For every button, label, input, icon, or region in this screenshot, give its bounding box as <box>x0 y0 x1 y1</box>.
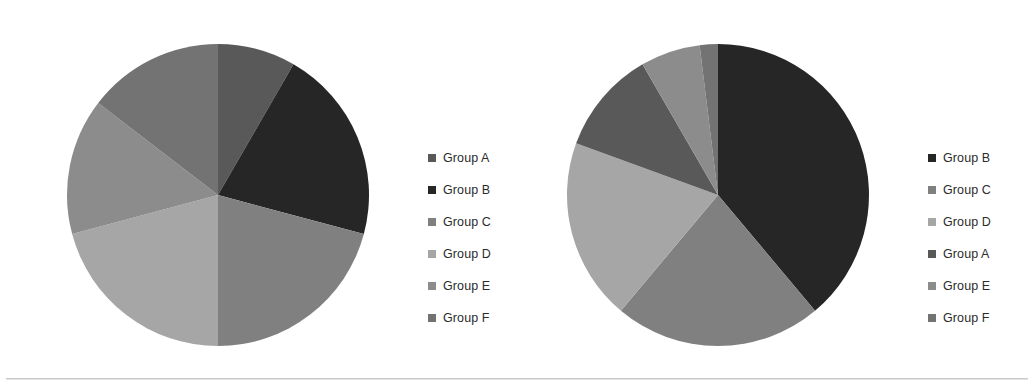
legend-item-group-f-left[interactable]: Group F <box>428 302 491 334</box>
legend-swatch-icon <box>428 282 436 290</box>
legend-swatch-icon <box>428 250 436 258</box>
legend-label: Group D <box>943 216 991 229</box>
legend-swatch-icon <box>928 250 936 258</box>
legend-label: Group A <box>443 152 490 165</box>
legend-item-group-a-right[interactable]: Group A <box>928 238 991 270</box>
pie-right-svg <box>566 43 870 347</box>
legend-left: Group AGroup BGroup CGroup DGroup EGroup… <box>428 142 491 334</box>
legend-swatch-icon <box>428 218 436 226</box>
legend-item-group-c-right[interactable]: Group C <box>928 174 991 206</box>
legend-swatch-icon <box>928 186 936 194</box>
legend-swatch-icon <box>928 282 936 290</box>
legend-swatch-icon <box>928 154 936 162</box>
legend-label: Group E <box>943 280 990 293</box>
pie-chart-right[interactable] <box>566 43 870 347</box>
figure-canvas: Group AGroup BGroup CGroup DGroup EGroup… <box>0 0 1034 389</box>
legend-item-group-d-left[interactable]: Group D <box>428 238 491 270</box>
legend-item-group-b-right[interactable]: Group B <box>928 142 991 174</box>
legend-label: Group B <box>943 152 990 165</box>
footer-divider-shadow <box>6 379 1028 380</box>
legend-item-group-e-left[interactable]: Group E <box>428 270 491 302</box>
pie-left-svg <box>66 43 370 347</box>
legend-label: Group C <box>443 216 491 229</box>
legend-item-group-b-left[interactable]: Group B <box>428 174 491 206</box>
legend-item-group-f-right[interactable]: Group F <box>928 302 991 334</box>
legend-label: Group F <box>943 312 990 325</box>
chart-panel-right: Group BGroup CGroup DGroup AGroup EGroup… <box>517 0 1034 389</box>
legend-swatch-icon <box>928 218 936 226</box>
legend-label: Group F <box>443 312 490 325</box>
legend-swatch-icon <box>428 154 436 162</box>
pie-chart-left[interactable] <box>66 43 370 347</box>
legend-label: Group C <box>943 184 991 197</box>
legend-item-group-a-left[interactable]: Group A <box>428 142 491 174</box>
legend-label: Group A <box>943 248 990 261</box>
legend-right: Group BGroup CGroup DGroup AGroup EGroup… <box>928 142 991 334</box>
legend-swatch-icon <box>428 186 436 194</box>
legend-item-group-e-right[interactable]: Group E <box>928 270 991 302</box>
legend-label: Group D <box>443 248 491 261</box>
legend-swatch-icon <box>428 314 436 322</box>
chart-panel-left: Group AGroup BGroup CGroup DGroup EGroup… <box>0 0 517 389</box>
legend-swatch-icon <box>928 314 936 322</box>
legend-item-group-c-left[interactable]: Group C <box>428 206 491 238</box>
legend-item-group-d-right[interactable]: Group D <box>928 206 991 238</box>
legend-label: Group E <box>443 280 490 293</box>
legend-label: Group B <box>443 184 490 197</box>
